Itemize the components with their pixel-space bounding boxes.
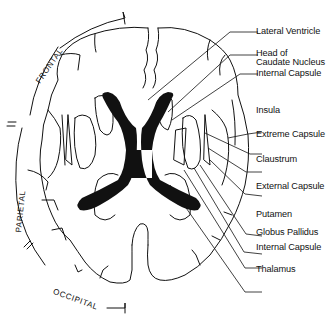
label-internal-capsule-anterior: Internal Capsule (256, 69, 321, 79)
right-insula (212, 110, 229, 185)
label-lateral-ventricle: Lateral Ventricle (256, 27, 320, 37)
left-claustrum (66, 115, 72, 165)
left-insula (48, 110, 61, 178)
left-putamen (74, 115, 96, 169)
right-claustrum (204, 115, 210, 165)
label-globus-pallidus: Globus Pallidus (256, 228, 318, 238)
occipital-arc (107, 303, 125, 313)
frontal-arc (60, 12, 125, 48)
label-extreme-capsule: Extreme Capsule (256, 130, 325, 140)
label-head-of-caudate-line2: Caudate Nucleus (256, 58, 325, 68)
brain-outline-right (148, 28, 249, 281)
label-external-capsule: External Capsule (256, 182, 324, 192)
label-insula: Insula (256, 106, 280, 116)
label-thalamus: Thalamus (256, 265, 296, 275)
right-globus (174, 128, 186, 165)
label-claustrum: Claustrum (256, 155, 297, 165)
label-internal-capsule-posterior: Internal Capsule (256, 243, 321, 253)
label-putamen: Putamen (256, 210, 292, 220)
